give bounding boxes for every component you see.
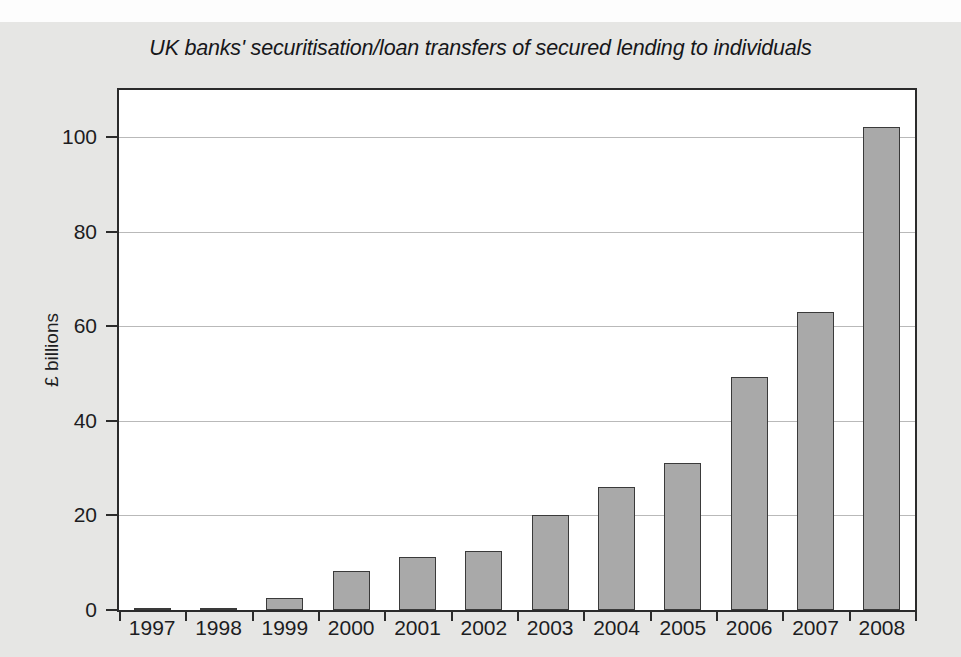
bar xyxy=(532,515,569,610)
y-axis-tick xyxy=(106,420,117,422)
x-axis-tick xyxy=(716,610,718,621)
x-axis-tick-label: 1997 xyxy=(129,616,176,640)
bar xyxy=(863,127,900,610)
y-axis-title: £ billions xyxy=(41,313,63,387)
x-axis-tick-label: 2007 xyxy=(792,616,839,640)
x-axis-tick xyxy=(384,610,386,621)
x-axis-tick-label: 1999 xyxy=(261,616,308,640)
chart-page: UK banks' securitisation/loan transfers … xyxy=(0,0,961,657)
gridline xyxy=(119,137,915,138)
plot-inner: 020406080100 xyxy=(119,90,915,610)
x-axis-tick xyxy=(915,610,917,621)
page-top-margin xyxy=(0,0,961,22)
x-axis-tick-label: 2008 xyxy=(858,616,905,640)
plot-area: 020406080100 xyxy=(117,88,917,612)
bar xyxy=(465,551,502,610)
x-axis-tick xyxy=(849,610,851,621)
gridline xyxy=(119,232,915,233)
y-axis-tick-label: 20 xyxy=(74,503,97,527)
x-axis-tick xyxy=(252,610,254,621)
x-axis-tick-label: 2002 xyxy=(460,616,507,640)
x-axis-tick-label: 2003 xyxy=(527,616,574,640)
x-axis-tick-label: 2004 xyxy=(593,616,640,640)
x-axis-tick-label: 2000 xyxy=(328,616,375,640)
x-axis-tick-label: 2006 xyxy=(726,616,773,640)
y-axis-tick xyxy=(106,514,117,516)
x-axis-tick-label: 2005 xyxy=(659,616,706,640)
x-axis-tick-label: 1998 xyxy=(195,616,242,640)
bar xyxy=(598,487,635,610)
y-axis-tick-label: 60 xyxy=(74,314,97,338)
bar xyxy=(333,571,370,610)
bar xyxy=(399,557,436,610)
y-axis-tick xyxy=(106,136,117,138)
x-axis-tick xyxy=(451,610,453,621)
chart-title: UK banks' securitisation/loan transfers … xyxy=(0,36,961,61)
gridline xyxy=(119,515,915,516)
y-axis-tick-label: 40 xyxy=(74,409,97,433)
y-axis-tick-label: 0 xyxy=(85,598,97,622)
x-axis-tick xyxy=(185,610,187,621)
y-axis-tick-label: 100 xyxy=(62,125,97,149)
bar xyxy=(266,598,303,610)
gridline xyxy=(119,421,915,422)
bar xyxy=(731,377,768,610)
bar xyxy=(664,463,701,610)
x-axis-tick xyxy=(583,610,585,621)
y-axis-tick xyxy=(106,325,117,327)
x-axis-tick xyxy=(650,610,652,621)
bar xyxy=(134,608,171,610)
x-axis-tick xyxy=(318,610,320,621)
gridline xyxy=(119,326,915,327)
y-axis-tick xyxy=(106,609,117,611)
x-axis-tick-label: 2001 xyxy=(394,616,441,640)
x-axis-tick xyxy=(782,610,784,621)
y-axis-tick-label: 80 xyxy=(74,220,97,244)
y-axis-tick xyxy=(106,231,117,233)
x-axis-tick xyxy=(119,610,121,621)
bar xyxy=(797,312,834,610)
x-axis-tick xyxy=(517,610,519,621)
bar xyxy=(200,608,237,610)
